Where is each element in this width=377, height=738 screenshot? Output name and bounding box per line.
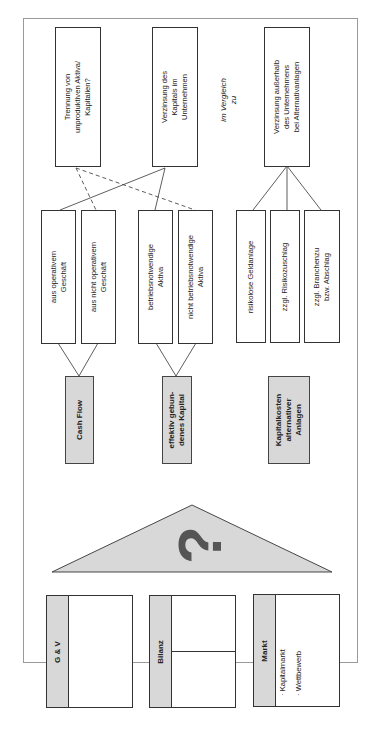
verzinsung-intern-box: Verzinsung des Kapitals im Unternehmen	[152, 27, 198, 167]
kapital-box: effektiv gebun- denes Kapital	[162, 376, 192, 464]
bilanz-box: Bilanz	[149, 595, 236, 708]
bilanz-divider	[172, 651, 235, 652]
aus-nicht-operativem-text: aus nicht operativem Geschäft	[89, 242, 109, 312]
verzinsung-extern-box: Verzinsung außerhalb des Unternehmens be…	[264, 27, 310, 167]
nicht-betriebsnotwendige-text: nicht betriebsnotwendige Aktiva	[186, 235, 206, 319]
guv-title: G & V	[53, 641, 63, 663]
betriebsnotwendige-box: betriebsnotwendige Aktiva	[138, 210, 173, 344]
trennung-box: Trennung von unproduktiven Aktiva/ Kapit…	[55, 27, 101, 167]
branchenzu-text: zzgl. Branchenzu bzw. Abschlag	[312, 247, 332, 305]
bilanz-header: Bilanz	[150, 596, 172, 707]
cash-flow-box: Cash Flow	[65, 376, 94, 464]
branchenzu-box: zzgl. Branchenzu bzw. Abschlag	[304, 210, 340, 343]
guv-box: G & V	[46, 595, 133, 708]
markt-items: · Kapitalmarkt · Wettbewerb	[276, 595, 339, 706]
markt-box: Markt · Kapitalmarkt · Wettbewerb	[253, 594, 340, 707]
risikolose-text: risikolose Geldanlage	[246, 240, 256, 313]
risikozuschlag-box: zzgl. Risikozuschlag	[270, 210, 300, 343]
risikozuschlag-text: zzgl. Risikozuschlag	[280, 242, 290, 310]
guv-header: G & V	[47, 596, 69, 707]
markt-item-wettbewerb: · Wettbewerb	[294, 651, 304, 696]
question-mark-symbol: ?	[169, 526, 231, 564]
markt-header: Markt	[254, 595, 276, 706]
risikolose-box: risikolose Geldanlage	[236, 210, 266, 343]
kapital-text: effektiv gebun- denes Kapital	[167, 392, 187, 449]
vergleich-label: im Vergleich zu	[219, 78, 239, 122]
kapitalkosten-text: Kapitalkosten alternativer Anlagen	[274, 394, 304, 446]
vergleich-label-wrap: im Vergleich zu	[214, 60, 244, 140]
aus-nicht-operativem-box: aus nicht operativem Geschäft	[81, 210, 116, 344]
bilanz-title: Bilanz	[156, 640, 166, 664]
aus-operativem-box: aus operativem Geschäft	[41, 210, 76, 344]
kapitalkosten-box: Kapitalkosten alternativer Anlagen	[268, 376, 310, 464]
trennung-text: Trennung von unproduktiven Aktiva/ Kapit…	[63, 61, 93, 133]
aus-operativem-text: aus operativem Geschäft	[49, 251, 69, 303]
question-mark-icon: ?	[150, 515, 250, 575]
cash-flow-text: Cash Flow	[75, 400, 85, 440]
verzinsung-intern-text: Verzinsung des Kapitals im Unternehmen	[160, 71, 190, 123]
nicht-betriebsnotwendige-box: nicht betriebsnotwendige Aktiva	[178, 210, 213, 344]
markt-item-kapitalmarkt: · Kapitalmarkt	[278, 649, 288, 696]
markt-title: Markt	[260, 640, 270, 661]
verzinsung-extern-text: Verzinsung außerhalb des Unternehmens be…	[272, 60, 302, 134]
betriebsnotwendige-text: betriebsnotwendige Aktiva	[146, 244, 166, 310]
